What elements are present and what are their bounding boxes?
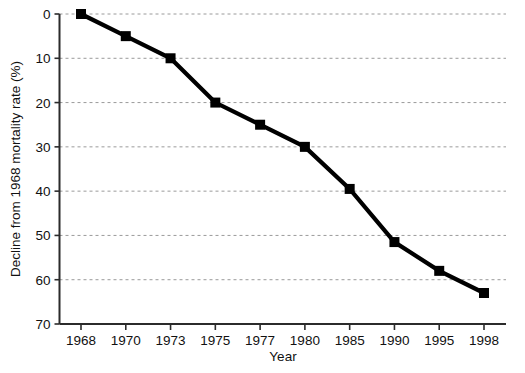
x-tick-label-1998: 1998 (469, 333, 499, 348)
x-tick-label-1990: 1990 (379, 333, 409, 348)
y-tick-label-30: 30 (35, 140, 50, 155)
mortality-decline-line-chart: 010203040506070 196819701973197519771980… (0, 0, 525, 373)
data-point-1968 (76, 9, 86, 19)
data-point-1970 (121, 31, 131, 41)
y-tick-label-40: 40 (35, 184, 50, 199)
y-tick-label-70: 70 (35, 317, 50, 332)
x-tick-label-1980: 1980 (290, 333, 320, 348)
y-tick-label-60: 60 (35, 273, 50, 288)
chart-canvas: 010203040506070 196819701973197519771980… (0, 0, 525, 373)
data-point-1980 (300, 142, 310, 152)
x-axis-title: Year (269, 349, 297, 364)
x-tick-label-1977: 1977 (245, 333, 275, 348)
data-point-1995 (434, 266, 444, 276)
x-tick-label-1995: 1995 (424, 333, 454, 348)
data-point-1998 (479, 288, 489, 298)
x-tick-label-1970: 1970 (111, 333, 141, 348)
data-point-1985 (345, 184, 355, 194)
x-tick-label-1985: 1985 (335, 333, 365, 348)
y-tick-label-20: 20 (35, 96, 50, 111)
data-point-1977 (255, 120, 265, 130)
x-tick-label-1968: 1968 (66, 333, 96, 348)
data-point-1975 (210, 98, 220, 108)
x-tick-label-1975: 1975 (200, 333, 230, 348)
y-tick-label-10: 10 (35, 51, 50, 66)
chart-background (0, 0, 525, 373)
x-tick-label-1973: 1973 (156, 333, 186, 348)
y-tick-label-50: 50 (35, 228, 50, 243)
data-point-1990 (389, 237, 399, 247)
y-axis-title: Decline from 1968 mortality rate (%) (8, 61, 23, 277)
y-tick-label-0: 0 (43, 7, 51, 22)
data-point-1973 (166, 53, 176, 63)
